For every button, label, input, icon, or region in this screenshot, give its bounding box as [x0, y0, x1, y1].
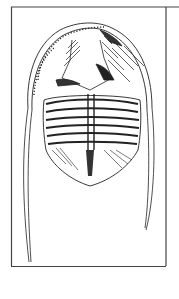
- trilobite-glabella: [56, 30, 144, 90]
- illustration-frame: [0, 0, 179, 299]
- trilobite-cephalon: [28, 23, 152, 110]
- trilobite-illustration: [0, 0, 179, 299]
- trilobite-thorax: [43, 94, 141, 186]
- trilobite-genal-spines: [24, 108, 154, 262]
